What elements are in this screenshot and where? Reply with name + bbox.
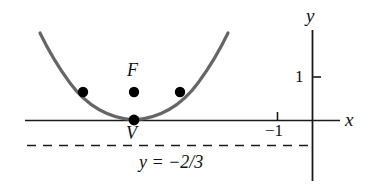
focus-label: F: [127, 61, 138, 79]
point-left: [78, 87, 88, 97]
point-focus: [129, 87, 139, 97]
parabola-figure: y x 1 −1 F V y = −2/3: [0, 0, 371, 196]
x-tick-label-neg1: −1: [265, 122, 283, 139]
directrix-label: y = −2/3: [139, 153, 203, 171]
y-tick-label-1: 1: [295, 68, 304, 85]
y-axis-label: y: [306, 6, 314, 25]
vertex-label: V: [126, 124, 137, 142]
point-right: [175, 87, 185, 97]
x-axis-label: x: [345, 110, 353, 129]
